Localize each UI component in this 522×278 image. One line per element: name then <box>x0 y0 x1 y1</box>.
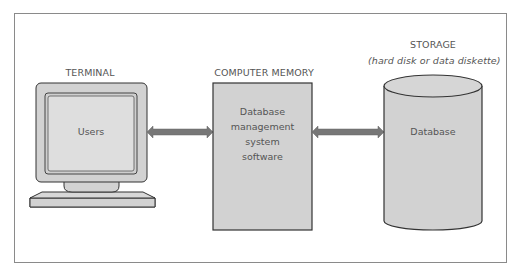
arrow-memory-storage-icon <box>312 126 384 138</box>
storage-sublabel: (hard disk or data diskette) <box>368 55 498 66</box>
memory-text-line-3: system <box>213 134 312 149</box>
computer-memory-label: COMPUTER MEMORY <box>205 67 323 78</box>
terminal-label: TERMINAL <box>40 67 140 78</box>
storage-label: STORAGE <box>383 39 483 50</box>
memory-text-line-1: Database <box>213 104 312 119</box>
terminal-monitor-icon <box>30 83 155 207</box>
memory-text-line-4: software <box>213 149 312 164</box>
storage-cylinder-icon <box>384 75 482 230</box>
terminal-screen-text: Users <box>48 124 134 139</box>
arrow-terminal-memory-icon <box>147 126 213 138</box>
memory-text-line-2: management <box>213 119 312 134</box>
computer-memory-text: Database management system software <box>213 104 312 164</box>
storage-cylinder-text: Database <box>384 124 482 139</box>
